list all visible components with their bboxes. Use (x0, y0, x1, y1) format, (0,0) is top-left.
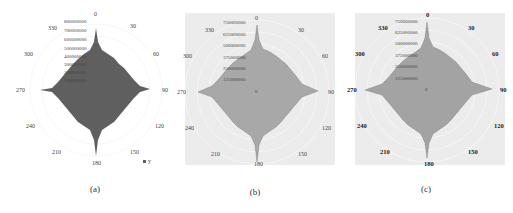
svg-text:800000000: 800000000 (64, 19, 87, 24)
caption-c: (c) (406, 184, 446, 194)
radar-area-a (40, 28, 150, 156)
svg-text:0: 0 (255, 15, 258, 21)
svg-text:180: 180 (92, 160, 101, 166)
chart-panel-b: 0 30 60 90 120 150 180 210 240 270 300 3… (170, 0, 340, 213)
svg-text:180: 180 (424, 160, 434, 167)
svg-text:270: 270 (347, 86, 357, 93)
svg-text:90: 90 (500, 86, 507, 93)
svg-text:600000000: 600000000 (64, 37, 87, 42)
legend-swatch-icon (143, 160, 146, 163)
svg-text:0: 0 (94, 11, 97, 17)
svg-text:270: 270 (16, 87, 25, 93)
svg-text:120: 120 (155, 123, 164, 129)
svg-text:120: 120 (322, 125, 331, 131)
svg-text:30: 30 (468, 24, 475, 31)
caption-b: (b) (235, 187, 275, 197)
svg-text:210: 210 (52, 149, 61, 155)
svg-text:210: 210 (211, 151, 220, 157)
svg-text:240: 240 (26, 123, 35, 129)
svg-text:500000000: 500000000 (223, 43, 246, 48)
svg-text:750000000: 750000000 (395, 19, 418, 24)
radar-chart-c: 0 30 60 90 120 150 180 210 240 270 300 3… (340, 0, 513, 213)
svg-text:90: 90 (162, 87, 168, 93)
svg-text:625000000: 625000000 (223, 32, 246, 37)
svg-text:240: 240 (185, 125, 194, 131)
svg-text:90: 90 (328, 89, 334, 95)
svg-text:y: y (148, 158, 151, 164)
svg-text:500000000: 500000000 (64, 46, 87, 51)
svg-text:210: 210 (380, 148, 390, 155)
svg-text:150: 150 (298, 151, 307, 157)
svg-text:125000000: 125000000 (395, 76, 418, 81)
radial-ticks-a: 800000000 700000000 600000000 500000000 … (64, 19, 87, 83)
svg-text:330: 330 (378, 24, 388, 31)
svg-text:625000000: 625000000 (395, 30, 418, 35)
svg-text:100000000: 100000000 (64, 78, 87, 83)
svg-text:500000000: 500000000 (395, 41, 418, 46)
caption-a: (a) (75, 184, 115, 194)
radar-chart-a: 0 30 60 90 120 150 180 210 240 270 300 3… (0, 0, 170, 213)
svg-text:125000000: 125000000 (223, 77, 246, 82)
svg-text:200000000: 200000000 (64, 70, 87, 75)
svg-text:180: 180 (254, 161, 263, 167)
svg-text:60: 60 (322, 53, 328, 59)
svg-text:30: 30 (130, 23, 136, 29)
svg-text:270: 270 (177, 89, 186, 95)
svg-text:60: 60 (153, 51, 159, 57)
svg-text:150: 150 (468, 148, 478, 155)
svg-text:300: 300 (355, 50, 365, 57)
svg-text:240: 240 (357, 122, 367, 129)
svg-text:400000000: 400000000 (64, 54, 87, 59)
svg-text:375000000: 375000000 (223, 55, 246, 60)
svg-text:250000000: 250000000 (223, 66, 246, 71)
svg-text:300: 300 (24, 51, 33, 57)
svg-text:375000000: 375000000 (395, 53, 418, 58)
svg-text:0: 0 (426, 11, 429, 18)
legend-a: y (143, 158, 151, 164)
svg-text:750000000: 750000000 (223, 20, 246, 25)
svg-text:150: 150 (130, 149, 139, 155)
svg-text:60: 60 (492, 50, 499, 57)
chart-panel-c: 0 30 60 90 120 150 180 210 240 270 300 3… (340, 0, 513, 213)
svg-text:300000000: 300000000 (64, 62, 87, 67)
svg-text:250000000: 250000000 (395, 64, 418, 69)
svg-text:330: 330 (205, 27, 214, 33)
svg-text:300: 300 (183, 53, 192, 59)
svg-text:30: 30 (298, 27, 304, 33)
svg-text:120: 120 (494, 122, 504, 129)
svg-text:330: 330 (48, 25, 57, 31)
radar-chart-b: 0 30 60 90 120 150 180 210 240 270 300 3… (170, 0, 340, 213)
svg-text:700000000: 700000000 (64, 28, 87, 33)
chart-panel-a: 0 30 60 90 120 150 180 210 240 270 300 3… (0, 0, 170, 213)
